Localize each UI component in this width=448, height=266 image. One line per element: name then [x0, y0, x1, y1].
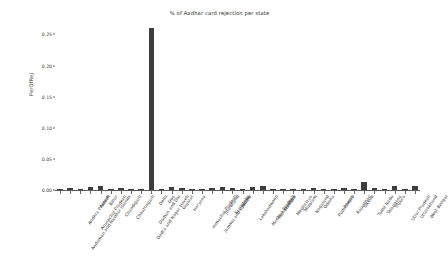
bar[interactable] [250, 187, 256, 190]
bar[interactable] [179, 188, 185, 190]
bar[interactable] [108, 189, 114, 190]
bar[interactable] [159, 189, 165, 190]
y-tick-mark [53, 96, 56, 97]
x-tick-label: Punjab [342, 194, 355, 209]
bar[interactable] [260, 186, 266, 190]
y-tick-mark [53, 65, 56, 66]
x-tick-mark [80, 191, 81, 194]
bar[interactable] [341, 188, 347, 190]
x-tick-mark [161, 191, 162, 194]
x-tick-mark [385, 191, 386, 194]
bar[interactable] [138, 189, 144, 190]
bar[interactable] [301, 189, 307, 190]
bar[interactable] [331, 189, 337, 190]
x-tick-mark [90, 191, 91, 194]
y-axis-label: PerOfRej [28, 73, 34, 96]
bar[interactable] [240, 189, 246, 190]
bar[interactable] [199, 189, 205, 190]
x-tick-mark [60, 191, 61, 194]
x-tick-mark [364, 191, 365, 194]
x-tick-mark [232, 191, 233, 194]
x-tick-mark [293, 191, 294, 194]
x-tick-mark [192, 191, 193, 194]
bar[interactable] [220, 187, 226, 190]
x-tick-layer: Andaman and Nicobar IslandsAndhra Prades… [55, 191, 420, 263]
bar[interactable] [169, 187, 175, 190]
x-tick-mark [141, 191, 142, 194]
x-tick-mark [374, 191, 375, 194]
x-tick-mark [172, 191, 173, 194]
x-tick-mark [324, 191, 325, 194]
x-tick-mark [344, 191, 345, 194]
bar[interactable] [402, 189, 408, 190]
bar[interactable] [321, 189, 327, 190]
x-tick-mark [151, 191, 152, 194]
x-tick-mark [405, 191, 406, 194]
x-tick-mark [283, 191, 284, 194]
x-tick-mark [395, 191, 396, 194]
x-tick-mark [415, 191, 416, 194]
x-tick-mark [354, 191, 355, 194]
x-tick-mark [273, 191, 274, 194]
x-tick-mark [182, 191, 183, 194]
bar[interactable] [361, 182, 367, 190]
x-tick-mark [111, 191, 112, 194]
x-tick-mark [70, 191, 71, 194]
plot-area: 0.000.050.100.150.200.25 [55, 22, 420, 190]
bar[interactable] [230, 188, 236, 190]
bar[interactable] [128, 189, 134, 190]
x-tick-mark [131, 191, 132, 194]
x-tick-mark [243, 191, 244, 194]
bar[interactable] [67, 188, 73, 190]
x-tick-mark [202, 191, 203, 194]
x-tick-mark [101, 191, 102, 194]
x-tick-label: Kerala [240, 194, 252, 208]
chart-title: % of Aadhar card rejection per state [0, 10, 439, 16]
bar[interactable] [290, 189, 296, 190]
x-tick-mark [121, 191, 122, 194]
bar[interactable] [382, 189, 388, 190]
bar[interactable] [149, 28, 155, 190]
bar[interactable] [280, 189, 286, 190]
bar[interactable] [189, 189, 195, 190]
y-tick-mark [53, 34, 56, 35]
bar[interactable] [351, 189, 357, 190]
bar[interactable] [270, 189, 276, 190]
bar[interactable] [209, 188, 215, 190]
x-tick-mark [212, 191, 213, 194]
x-tick-mark [303, 191, 304, 194]
x-tick-label: Sikkim [362, 194, 374, 209]
y-tick-mark [53, 127, 56, 128]
bar[interactable] [88, 187, 94, 190]
x-tick-mark [314, 191, 315, 194]
x-tick-mark [253, 191, 254, 194]
bar[interactable] [57, 189, 63, 190]
bar[interactable] [412, 186, 418, 190]
bar[interactable] [311, 188, 317, 190]
bar[interactable] [98, 186, 104, 190]
bar[interactable] [78, 189, 84, 190]
x-tick-mark [263, 191, 264, 194]
bar[interactable] [118, 188, 124, 190]
x-tick-mark [222, 191, 223, 194]
bar[interactable] [392, 186, 398, 190]
x-tick-mark [334, 191, 335, 194]
bar[interactable] [372, 188, 378, 190]
y-tick-mark [53, 158, 56, 159]
